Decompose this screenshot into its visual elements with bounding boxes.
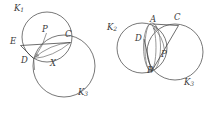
leader-arrow-p-right (154, 26, 157, 29)
label-k2: K2 (107, 23, 117, 32)
label-k3-right: K3 (184, 78, 194, 87)
label-c-left: C (65, 30, 72, 39)
label-x-left: X (50, 59, 56, 68)
label-p-right: P (161, 50, 167, 59)
label-k3-left-sub: 3 (84, 90, 88, 97)
tick-at-d (34, 58, 35, 70)
label-a-text: A (150, 14, 156, 24)
label-d-right: D (135, 34, 142, 43)
circle-k2 (117, 23, 167, 73)
label-c-text: C (65, 29, 72, 39)
label-c-right: C (174, 13, 181, 22)
label-d-right-text: D (135, 33, 142, 43)
circle-through-a-b-inner (145, 24, 156, 71)
label-p-left: P (42, 25, 48, 34)
left-diagram-group (21, 12, 96, 97)
label-k3-right-sub: 3 (190, 80, 194, 87)
label-d-left: D (21, 56, 28, 65)
circle-k3-right (147, 24, 203, 80)
label-b-text: B (147, 65, 153, 75)
right-diagram-group (117, 23, 203, 80)
label-b-right: B (147, 66, 153, 75)
label-k3-left: K3 (78, 88, 88, 97)
label-a-right: A (150, 15, 156, 24)
segment-e-to-c (21, 43, 71, 46)
label-e-text: E (10, 36, 16, 46)
label-e-left: E (10, 37, 16, 46)
label-k1: K1 (14, 4, 24, 13)
label-k1-sub: 1 (20, 6, 24, 13)
label-x-text: X (50, 58, 56, 68)
label-p-right-text: P (161, 49, 167, 59)
geometry-figure: K1 E P C D X K3 K2 A C D P B K3 (0, 0, 208, 114)
label-d-text: D (21, 55, 28, 65)
label-p-text: P (42, 24, 48, 34)
label-c-right-text: C (174, 12, 181, 22)
label-k2-sub: 2 (113, 25, 117, 32)
